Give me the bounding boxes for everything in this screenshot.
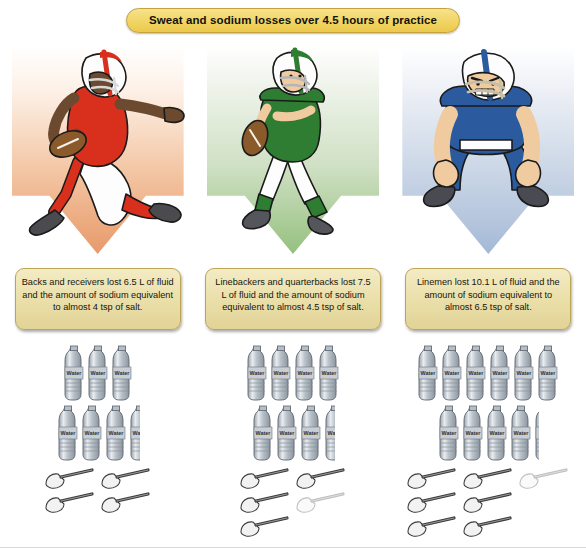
spoon-row — [391, 492, 586, 516]
teaspoon-of-salt-icon — [460, 468, 516, 492]
svg-text:Water: Water — [466, 430, 482, 436]
spoon-row — [0, 468, 195, 492]
water-bottle-icon: Water — [299, 405, 323, 462]
water-bottle-icon: Water — [110, 345, 134, 402]
spoon-group-backs-receivers — [0, 468, 195, 516]
column-linebackers-quarterbacks: Linebackers and quarterbacks lost 7.5 L … — [195, 40, 390, 546]
water-bottle-icon: Water — [104, 405, 128, 462]
teaspoon-of-salt-icon — [404, 468, 460, 492]
svg-text:Water: Water — [322, 370, 338, 376]
svg-text:Water: Water — [541, 370, 557, 376]
teaspoon-of-salt-icon — [237, 468, 293, 492]
water-bottle-icon: Water — [245, 345, 269, 402]
column-backs-receivers: Backs and receivers lost 6.5 L of fluid … — [0, 40, 195, 546]
spoon-row — [195, 492, 390, 516]
spoon-row — [391, 468, 586, 492]
water-bottle-icon: Water — [317, 345, 341, 402]
bottle-row: Water Water Water Water — [195, 405, 390, 463]
bottle-group-linebackers-quarterbacks: Water Water Water Water Water Water Wate… — [195, 345, 390, 465]
page-title: Sweat and sodium losses over 4.5 hours o… — [126, 8, 460, 33]
bottle-group-backs-receivers: Water Water Water Water Water Water Wate… — [0, 345, 195, 465]
teaspoon-of-salt-icon — [460, 492, 516, 516]
water-bottle-icon: Water — [251, 405, 275, 462]
svg-text:Water: Water — [60, 430, 76, 436]
svg-text:Water: Water — [250, 370, 266, 376]
svg-text:Water: Water — [280, 430, 296, 436]
water-bottle-icon: Water — [86, 345, 110, 402]
teaspoon-of-salt-icon — [98, 468, 154, 492]
water-bottle-icon: Water — [416, 345, 440, 402]
columns-container: Backs and receivers lost 6.5 L of fluid … — [0, 40, 586, 546]
teaspoon-of-salt-icon — [42, 492, 98, 516]
athlete-zone-2 — [195, 40, 390, 262]
teaspoon-of-salt-icon — [404, 492, 460, 516]
water-bottle-icon: Water — [485, 405, 509, 462]
teaspoon-of-salt-icon — [98, 492, 154, 516]
water-bottle-icon-partial — [533, 405, 539, 462]
water-bottle-icon-half: Water — [128, 405, 140, 462]
svg-text:Water: Water — [514, 430, 530, 436]
water-bottle-icon: Water — [536, 345, 560, 402]
infographic-page: Sweat and sodium losses over 4.5 hours o… — [0, 0, 586, 548]
teaspoon-of-salt-icon — [237, 492, 293, 516]
water-bottle-icon: Water — [269, 345, 293, 402]
svg-text:Water: Water — [445, 370, 461, 376]
svg-text:Water: Water — [517, 370, 533, 376]
svg-text:Water: Water — [304, 430, 320, 436]
water-bottle-icon: Water — [461, 405, 485, 462]
running-back-player — [8, 44, 188, 248]
svg-text:Water: Water — [132, 430, 139, 436]
bottle-row: Water Water Water Water — [0, 405, 195, 463]
svg-text:Water: Water — [442, 430, 458, 436]
bottle-group-linemen: Water Water Water Water Water Water Wate… — [391, 345, 586, 465]
title-banner-wrap: Sweat and sodium losses over 4.5 hours o… — [0, 8, 586, 33]
teaspoon-of-salt-icon-half — [516, 468, 572, 492]
svg-text:Water: Water — [328, 430, 335, 436]
svg-text:Water: Water — [493, 370, 509, 376]
svg-text:Water: Water — [66, 370, 82, 376]
spoon-group-linemen — [391, 468, 586, 540]
water-bottle-icon: Water — [437, 405, 461, 462]
svg-text:Water: Water — [256, 430, 272, 436]
svg-text:Water: Water — [298, 370, 314, 376]
water-bottle-icon: Water — [62, 345, 86, 402]
lineman-player — [398, 44, 578, 248]
water-bottle-icon-half: Water — [323, 405, 335, 462]
spoon-row — [391, 516, 586, 540]
svg-text:Water: Water — [274, 370, 290, 376]
water-bottle-icon: Water — [80, 405, 104, 462]
svg-text:Water: Water — [90, 370, 106, 376]
bottle-row: Water Water Water Water — [195, 345, 390, 403]
water-bottle-icon: Water — [56, 405, 80, 462]
svg-text:Water: Water — [469, 370, 485, 376]
teaspoon-of-salt-icon-half — [293, 492, 349, 516]
spoon-group-linebackers-quarterbacks — [195, 468, 390, 540]
bottle-row: Water Water Water — [0, 345, 195, 403]
teaspoon-of-salt-icon — [293, 468, 349, 492]
water-bottle-icon: Water — [488, 345, 512, 402]
quarterback-player — [203, 44, 383, 248]
fact-box-linemen: Linemen lost 10.1 L of fluid and the amo… — [405, 268, 571, 330]
svg-text:Water: Water — [84, 430, 100, 436]
bottle-row: Water Water Water Water Water Water — [391, 345, 586, 403]
spoon-row — [195, 468, 390, 492]
teaspoon-of-salt-icon — [42, 468, 98, 492]
bottle-row: Water Water Water Water — [391, 405, 586, 463]
teaspoon-of-salt-icon — [237, 516, 293, 540]
water-bottle-icon: Water — [440, 345, 464, 402]
spoon-row — [195, 516, 390, 540]
water-bottle-icon: Water — [509, 405, 533, 462]
water-bottle-icon: Water — [512, 345, 536, 402]
svg-text:Water: Water — [490, 430, 506, 436]
spoon-row — [0, 492, 195, 516]
teaspoon-of-salt-icon — [460, 516, 516, 540]
water-bottle-icon: Water — [275, 405, 299, 462]
svg-text:Water: Water — [421, 370, 437, 376]
teaspoon-of-salt-icon — [404, 516, 460, 540]
column-linemen: Linemen lost 10.1 L of fluid and the amo… — [391, 40, 586, 546]
athlete-zone-3 — [391, 40, 586, 262]
athlete-zone-1 — [0, 40, 195, 262]
svg-text:Water: Water — [114, 370, 130, 376]
fact-box-linebackers-quarterbacks: Linebackers and quarterbacks lost 7.5 L … — [205, 268, 381, 330]
svg-text:Water: Water — [108, 430, 124, 436]
